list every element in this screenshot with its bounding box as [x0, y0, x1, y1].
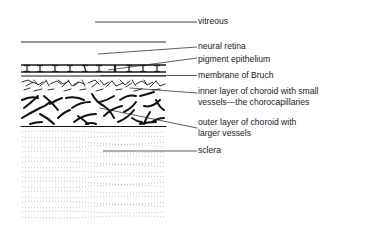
label-inner-choroid-line2: vessels—the chorocapillaries [198, 97, 318, 108]
label-pigment-epithelium: pigment epithelium [198, 54, 270, 65]
label-inner-choroid-line1: inner layer of choroid with small [198, 86, 318, 97]
label-membrane-of-bruch: membrane of Bruch [198, 70, 273, 81]
label-pigment-epithelium-text: pigment epithelium [198, 54, 270, 64]
label-membrane-of-bruch-text: membrane of Bruch [198, 70, 273, 80]
label-neural-retina: neural retina [198, 41, 246, 52]
label-inner-choroid: inner layer of choroid with small vessel… [198, 86, 318, 107]
neural-retina-layer [21, 42, 197, 54]
inner-choroid-layer [22, 80, 197, 93]
label-vitreous-text: vitreous [198, 16, 228, 26]
outer-choroid-layer [21, 92, 197, 128]
label-outer-choroid-line1: outer layer of choroid with [198, 117, 296, 128]
label-sclera: sclera [198, 145, 221, 156]
label-vitreous: vitreous [198, 16, 228, 27]
sclera-layer [22, 131, 166, 218]
label-outer-choroid-line2: larger vessels [198, 128, 296, 139]
label-outer-choroid: outer layer of choroid with larger vesse… [198, 117, 296, 138]
label-sclera-text: sclera [198, 145, 221, 155]
bruch-membrane-layer [21, 76, 197, 77]
pigment-epithelium-layer [21, 58, 197, 72]
eye-layers-diagram [0, 0, 370, 236]
label-neural-retina-text: neural retina [198, 41, 246, 51]
